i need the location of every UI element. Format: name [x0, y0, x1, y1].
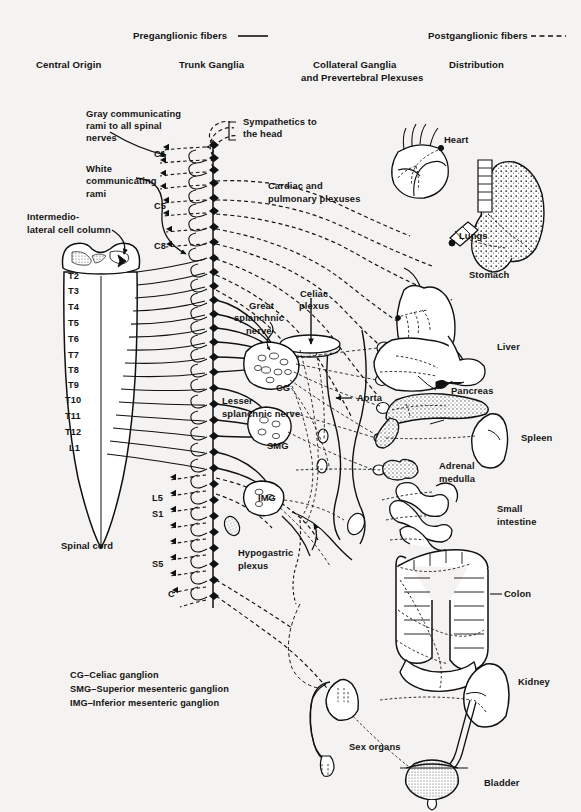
legend-line-cg: CG–Celiac ganglion [70, 669, 159, 683]
segment-label-s5: S5 [152, 558, 164, 571]
segment-label-t6: T6 [68, 333, 79, 346]
gray-rami-label-line3: nerves [86, 132, 117, 145]
hypogastric-plexus-label-line1: Hypogastric [238, 547, 293, 560]
celiac-plexus-label-line1: Celiac [300, 288, 328, 301]
organ-label-liver: Liver [497, 341, 520, 354]
white-rami-label-line3: rami [86, 188, 106, 201]
segment-label-t4: T4 [68, 301, 79, 314]
legend-line-smg: SMG–Superior mesenteric ganglion [70, 683, 229, 697]
organ-label-spleen: Spleen [521, 432, 552, 445]
organ-label-bladder: Bladder [484, 777, 520, 790]
column-header-distribution: Distribution [449, 59, 504, 72]
cardiac-pulmonary-label-line2: pulmonary plexuses [268, 193, 360, 206]
cg-label: CG [276, 382, 290, 395]
organ-label-small-intestine-line1: Small [497, 503, 523, 516]
segment-label-l1: L1 [69, 442, 80, 455]
segment-label-t11: T11 [65, 410, 81, 423]
diagram-canvas: Preganglionic fibers Postganglionic fibe… [0, 0, 581, 812]
lesser-splanchnic-label-line2: splanchnic nerve [222, 408, 300, 421]
segment-label-t8: T8 [68, 364, 79, 377]
segment-label-t5: T5 [68, 317, 79, 330]
key-preganglionic-label: Preganglionic fibers [133, 30, 227, 43]
gray-rami-label-line2: rami to all spinal [86, 120, 162, 133]
spinal-cord-label: Spinal cord [61, 540, 113, 553]
organ-label-heart: Heart [444, 134, 468, 147]
segment-label-c5: C5 [154, 200, 166, 213]
lesser-splanchnic-label-line1: Lesser [222, 395, 253, 408]
organ-label-colon: Colon [504, 588, 531, 601]
legend-line-img: IMG–Inferior mesenteric ganglion [70, 697, 219, 711]
great-splanchnic-label-line2: splanchnic [234, 312, 284, 325]
organ-label-adrenal-line2: medulla [439, 473, 475, 486]
segment-label-t9: T9 [68, 379, 79, 392]
segment-label-t7: T7 [68, 349, 79, 362]
cardiac-pulmonary-label-line1: Cardiac and [268, 180, 323, 193]
segment-label-t2: T2 [68, 270, 79, 283]
great-splanchnic-label-line3: nerve [246, 325, 272, 338]
column-header-central-origin: Central Origin [36, 59, 101, 72]
sympathetics-head-label-line2: the head [243, 128, 282, 141]
column-header-prevertebral-plexuses: and Prevertebral Plexuses [301, 72, 424, 85]
column-header-trunk-ganglia: Trunk Ganglia [179, 59, 244, 72]
organ-label-pancreas: Pancreas [451, 385, 494, 398]
segment-label-coccygeal: C [168, 588, 175, 601]
white-rami-label-line1: White [86, 163, 112, 176]
organ-label-stomach: Stomach [469, 269, 509, 282]
organ-label-small-intestine-line2: intestine [497, 516, 536, 529]
white-rami-label-line2: communicating [86, 175, 157, 188]
intermediolateral-label-line1: Intermedio- [27, 211, 79, 224]
sympathetics-head-label-line1: Sympathetics to [243, 116, 317, 129]
great-splanchnic-label-line1: Great [249, 300, 274, 313]
organ-label-sex-organs: Sex organs [349, 741, 401, 754]
hypogastric-plexus-label-line2: plexus [238, 560, 268, 573]
organ-label-kidney: Kidney [518, 676, 550, 689]
segment-label-c8: C8 [154, 240, 166, 253]
gray-rami-label-line1: Gray communicating [86, 108, 181, 121]
smg-label: SMG [267, 440, 289, 453]
organ-label-lungs: Lungs [459, 230, 488, 243]
aorta-label: Aorta [357, 392, 382, 405]
img-label: IMG [258, 492, 276, 505]
segment-label-t3: T3 [68, 285, 79, 298]
segment-label-t12: T12 [65, 426, 81, 439]
column-header-collateral-ganglia: Collateral Ganglia [313, 59, 396, 72]
celiac-plexus-label-line2: plexus [299, 300, 329, 313]
segment-label-t10: T10 [65, 394, 81, 407]
intermediolateral-label-line2: lateral cell column [27, 224, 111, 237]
organ-label-adrenal-line1: Adrenal [439, 460, 475, 473]
segment-label-c1: C1 [154, 148, 166, 161]
segment-label-s1: S1 [152, 508, 164, 521]
segment-label-l5: L5 [152, 492, 163, 505]
key-postganglionic-label: Postganglionic fibers [428, 30, 528, 43]
